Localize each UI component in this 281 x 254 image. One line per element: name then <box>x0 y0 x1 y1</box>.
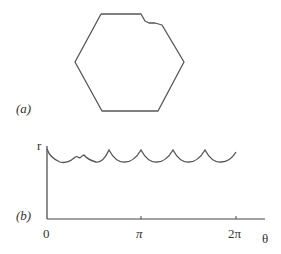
y-axis-label: r <box>37 138 41 154</box>
figure-canvas <box>0 0 281 254</box>
x-tick-label-pi: π <box>136 226 143 242</box>
x-tick-label-2pi: 2π <box>228 226 241 242</box>
figure: (a) r (b) 0 π 2π θ <box>0 0 281 254</box>
panel-b-label: (b) <box>16 208 31 224</box>
x-axis-label: θ <box>262 231 268 247</box>
r-theta-curve <box>47 149 236 163</box>
x-tick-label-0: 0 <box>43 226 50 242</box>
panel-a-label: (a) <box>16 101 31 117</box>
hexagon-outline <box>75 14 184 111</box>
